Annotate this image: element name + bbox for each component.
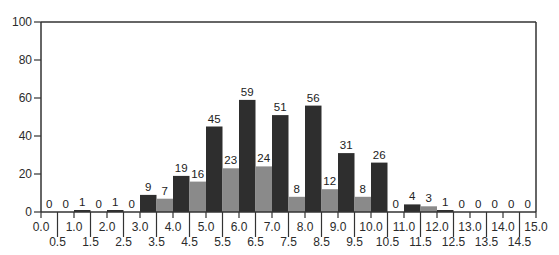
bar-value-label: 0	[525, 198, 531, 210]
bar-value-label: 9	[145, 181, 151, 193]
x-major-tick-label: 15.0	[524, 220, 548, 234]
bar-value-label: 1	[79, 196, 85, 208]
y-axis: 020406080100	[12, 15, 41, 219]
x-major-tick-label: 7.0	[264, 220, 281, 234]
bar-value-label: 3	[426, 192, 432, 204]
x-major-tick-label: 3.0	[132, 220, 149, 234]
bar-11.5-12	[421, 206, 438, 212]
x-major-tick-label: 9.0	[330, 220, 347, 234]
bar-5.5-6	[223, 168, 240, 212]
bar-value-label: 51	[274, 101, 287, 113]
x-minor-tick-label: 4.5	[181, 235, 198, 249]
x-minor-tick-label: 2.5	[115, 235, 132, 249]
histogram-chart: 020406080100 001010971916452359245185612…	[0, 0, 559, 255]
bar-value-label: 23	[224, 154, 237, 166]
x-major-tick-label: 1.0	[66, 220, 83, 234]
x-minor-tick-label: 0.5	[49, 235, 66, 249]
x-minor-tick-label: 3.5	[148, 235, 165, 249]
bar-value-label: 0	[129, 198, 135, 210]
x-minor-tick-label: 6.5	[247, 235, 264, 249]
bar-value-label: 26	[373, 149, 386, 161]
x-minor-tick-label: 8.5	[313, 235, 330, 249]
bar-10-10.5	[371, 163, 388, 212]
bar-value-label: 0	[459, 198, 465, 210]
x-minor-tick-label: 9.5	[346, 235, 363, 249]
bar-value-label: 45	[208, 113, 221, 125]
bar-4.5-5	[190, 182, 207, 212]
bar-9-9.5	[338, 153, 355, 212]
bar-value-label: 12	[323, 175, 336, 187]
bar-7-7.5	[272, 115, 289, 212]
y-tick-label: 80	[19, 53, 33, 67]
x-major-tick-label: 2.0	[99, 220, 116, 234]
y-tick-label: 100	[12, 15, 32, 29]
bar-3-3.5	[140, 195, 157, 212]
bar-value-label: 0	[475, 198, 481, 210]
x-major-tick-label: 0.0	[33, 220, 50, 234]
x-major-tick-label: 4.0	[165, 220, 182, 234]
bar-value-label: 1	[112, 196, 118, 208]
x-major-tick-label: 8.0	[297, 220, 314, 234]
y-tick-label: 40	[19, 129, 33, 143]
x-major-tick-label: 14.0	[491, 220, 515, 234]
bar-5-5.5	[206, 127, 223, 213]
y-tick-label: 20	[19, 167, 33, 181]
bar-value-label: 0	[492, 198, 498, 210]
x-major-tick-label: 11.0	[393, 220, 416, 234]
bar-value-label: 4	[409, 190, 416, 202]
x-major-tick-label: 10.0	[359, 220, 383, 234]
x-major-tick-label: 12.0	[425, 220, 449, 234]
bar-value-label: 16	[191, 168, 204, 180]
bar-4-4.5	[173, 176, 190, 212]
x-major-tick-label: 5.0	[198, 220, 215, 234]
x-minor-tick-label: 5.5	[214, 235, 231, 249]
bar-value-label: 24	[257, 152, 270, 164]
bar-value-label: 31	[340, 139, 353, 151]
bar-6-6.5	[239, 100, 256, 212]
x-minor-tick-label: 13.5	[475, 235, 499, 249]
bar-8-8.5	[305, 106, 322, 212]
bar-value-label: 19	[175, 162, 188, 174]
bar-value-label: 0	[508, 198, 514, 210]
bar-8.5-9	[322, 189, 339, 212]
x-minor-tick-label: 11.5	[409, 235, 432, 249]
bar-value-label: 7	[162, 185, 168, 197]
bar-7.5-8	[289, 197, 306, 212]
bar-value-label: 0	[63, 198, 69, 210]
bar-value-label: 8	[294, 183, 300, 195]
bar-value-label: 56	[307, 92, 320, 104]
bar-3.5-4	[157, 199, 174, 212]
bar-6.5-7	[256, 166, 273, 212]
x-minor-tick-label: 12.5	[442, 235, 466, 249]
x-major-tick-label: 6.0	[231, 220, 248, 234]
bar-value-label: 0	[96, 198, 102, 210]
bar-value-label: 1	[442, 196, 448, 208]
bar-value-label: 0	[393, 198, 399, 210]
x-minor-tick-label: 1.5	[82, 235, 99, 249]
x-major-tick-label: 13.0	[458, 220, 482, 234]
x-minor-tick-label: 10.5	[376, 235, 400, 249]
x-minor-tick-label: 14.5	[508, 235, 532, 249]
bar-value-label: 59	[241, 86, 254, 98]
bar-9.5-10	[355, 197, 372, 212]
bar-value-label: 0	[46, 198, 52, 210]
x-minor-tick-label: 7.5	[280, 235, 297, 249]
bar-value-label: 8	[360, 183, 366, 195]
x-axis: 0.01.02.03.04.05.06.07.08.09.010.011.012…	[33, 212, 548, 249]
bar-11-11.5	[404, 204, 421, 212]
y-tick-label: 0	[25, 205, 32, 219]
y-tick-label: 60	[19, 91, 33, 105]
